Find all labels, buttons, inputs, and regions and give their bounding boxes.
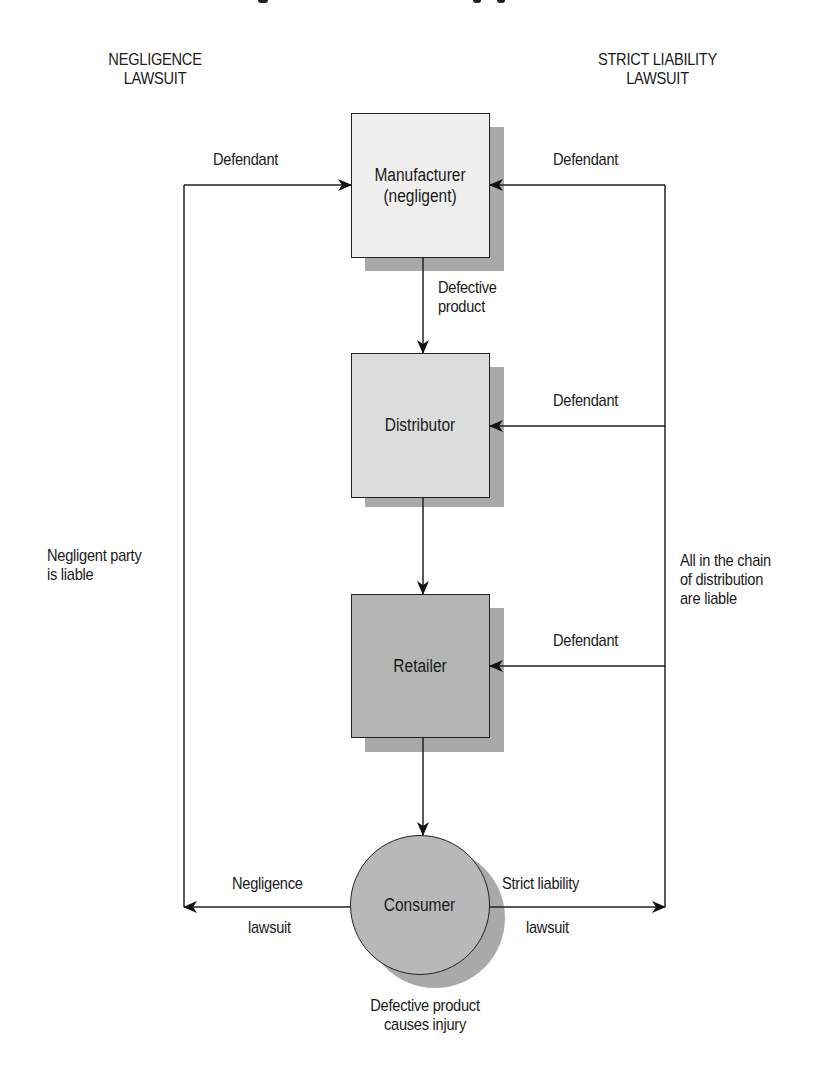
distributor-label: Distributor <box>385 415 456 436</box>
defendant-retailer-label: Defendant <box>553 631 618 650</box>
defective-product-line-2: product <box>438 297 497 316</box>
header-right-line-2: LAWSUIT <box>578 69 737 88</box>
defendant-right-top-label: Defendant <box>553 150 618 169</box>
defendant-distributor-label: Defendant <box>553 391 618 410</box>
strict-liability-label: Strict liability <box>502 874 579 893</box>
distributor-node: Distributor <box>351 353 490 498</box>
cropped-text-fragment <box>473 0 481 3</box>
header-right-line-1: STRICT LIABILITY <box>578 50 737 69</box>
cropped-text-fragment <box>497 0 505 3</box>
defective-product-label: Defective product <box>438 278 497 316</box>
manufacturer-label: Manufacturer <box>375 165 466 186</box>
consumer-caption: Defective product causes injury <box>352 996 498 1034</box>
retailer-label: Retailer <box>394 656 447 677</box>
chain-note-line-2: of distribution <box>680 570 771 589</box>
negligence-label: Negligence <box>232 874 303 893</box>
consumer-label: Consumer <box>384 895 455 916</box>
manufacturer-node: Manufacturer (negligent) <box>351 113 490 258</box>
header-negligence-lawsuit: NEGLIGENCE LAWSUIT <box>91 50 220 88</box>
negligent-party-note: Negligent party is liable <box>47 546 141 584</box>
cropped-text-fragment <box>258 0 268 3</box>
defective-product-line-1: Defective <box>438 278 497 297</box>
negligent-note-line-2: is liable <box>47 565 141 584</box>
chain-of-distribution-note: All in the chain of distribution are lia… <box>680 551 771 608</box>
consumer-caption-line-2: causes injury <box>352 1015 498 1034</box>
chain-note-line-1: All in the chain <box>680 551 771 570</box>
strict-liability-lawsuit-label: lawsuit <box>526 918 569 937</box>
consumer-caption-line-1: Defective product <box>352 996 498 1015</box>
header-strict-liability-lawsuit: STRICT LIABILITY LAWSUIT <box>578 50 737 88</box>
negligence-lawsuit-label: lawsuit <box>248 918 291 937</box>
retailer-node: Retailer <box>351 594 490 738</box>
chain-note-line-3: are liable <box>680 589 771 608</box>
manufacturer-sublabel: (negligent) <box>375 186 466 207</box>
consumer-node: Consumer <box>350 835 490 975</box>
header-left-line-1: NEGLIGENCE <box>91 50 220 69</box>
header-left-line-2: LAWSUIT <box>91 69 220 88</box>
defendant-left-label: Defendant <box>213 150 278 169</box>
negligent-note-line-1: Negligent party <box>47 546 141 565</box>
